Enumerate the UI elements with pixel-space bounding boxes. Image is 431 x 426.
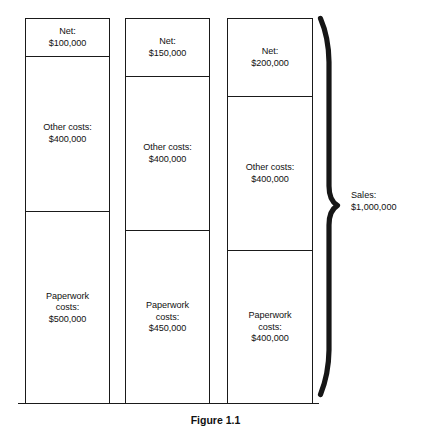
horizontal-axis-line [18,403,319,404]
segment-label: Other costs: [246,162,294,174]
segment-value: $400,000 [149,154,187,166]
bar-1-segment-other-costs: Other costs: $400,000 [26,57,109,212]
segment-label: Net: [262,46,278,58]
stacked-bar-3: Net: $200,000 Other costs: $400,000 Pape… [227,18,313,403]
bar-2-segment-other-costs: Other costs: $400,000 [126,77,209,231]
bar-1-segment-net: Net: $100,000 [26,19,109,57]
segment-value: $100,000 [49,38,87,50]
segment-value: $400,000 [49,134,87,146]
segment-label-line-2: costs: [258,322,281,334]
segment-value: $400,000 [251,174,289,186]
bar-2-segment-paperwork-costs: Paperwork costs: $450,000 [126,231,209,404]
bar-3-segment-net: Net: $200,000 [228,19,312,97]
brace-svg [316,14,344,408]
right-curly-brace-icon [316,14,344,408]
segment-value: $450,000 [149,323,187,335]
segment-value: $400,000 [251,333,289,345]
stacked-bar-2: Net: $150,000 Other costs: $400,000 Pape… [125,18,210,403]
bar-2-segment-net: Net: $150,000 [126,19,209,77]
segment-label: Net: [159,36,175,48]
segment-label-line-2: costs: [56,302,79,314]
bar-3-segment-other-costs: Other costs: $400,000 [228,97,312,251]
bar-1-segment-paperwork-costs: Paperwork costs: $500,000 [26,212,109,404]
sales-total-label: Sales: $1,000,000 [351,190,397,214]
sales-label-value: $1,000,000 [351,202,397,214]
segment-value: $200,000 [251,58,289,70]
segment-label: Net: [59,26,75,38]
segment-label: Other costs: [143,142,191,154]
segment-label-line-1: Paperwork [248,310,291,322]
segment-value: $500,000 [49,314,87,326]
segment-label-line-1: Paperwork [146,300,189,312]
segment-label-line-1: Paperwork [46,291,89,303]
bar-3-segment-paperwork-costs: Paperwork costs: $400,000 [228,251,312,404]
segment-label: Other costs: [43,122,91,134]
stacked-bar-1: Net: $100,000 Other costs: $400,000 Pape… [25,18,110,403]
sales-label-name: Sales: [351,190,397,202]
figure-caption: Figure 1.1 [0,414,431,426]
segment-label-line-2: costs: [156,312,179,324]
segment-value: $150,000 [149,48,187,60]
